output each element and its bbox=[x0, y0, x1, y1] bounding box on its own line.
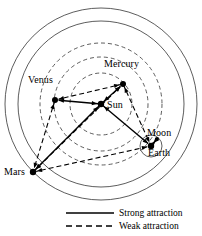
weak-attraction-edge-group bbox=[33, 84, 149, 172]
legend-swatch-group bbox=[66, 213, 114, 226]
label-mercury: Mercury bbox=[104, 59, 139, 69]
legend-label-weak: Weak attraction bbox=[119, 221, 179, 231]
node-venus[interactable] bbox=[52, 97, 58, 103]
label-sun: Sun bbox=[107, 100, 123, 110]
label-mars: Mars bbox=[4, 167, 25, 177]
body-node-group bbox=[30, 81, 159, 175]
node-mercury[interactable] bbox=[120, 81, 126, 87]
legend-label-strong: Strong attraction bbox=[119, 208, 183, 218]
label-earth: Earth bbox=[148, 148, 170, 158]
diagram-canvas bbox=[0, 0, 202, 236]
edge-venus-mars bbox=[34, 100, 55, 168]
edge-mercury-venus bbox=[59, 84, 123, 99]
node-mars[interactable] bbox=[30, 169, 36, 175]
label-moon: Moon bbox=[147, 128, 171, 138]
label-venus: Venus bbox=[28, 75, 53, 85]
arrowhead-venus-mars-rev bbox=[50, 103, 54, 109]
solar-attraction-diagram: SunMercuryVenusEarthMoonMars Strong attr… bbox=[0, 0, 202, 236]
edge-mars-earth bbox=[33, 147, 147, 172]
node-sun[interactable] bbox=[98, 101, 104, 107]
